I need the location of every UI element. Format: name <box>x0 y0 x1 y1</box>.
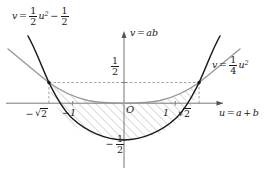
x-tick-label-one: 1 <box>163 108 169 118</box>
left-curve-fraction-one: 1 2 <box>29 6 37 26</box>
half-fraction: 1 2 <box>111 56 119 76</box>
neg-half-num: 1 <box>116 134 124 145</box>
neg-half-sign: − <box>104 139 115 149</box>
x-tick-label-negative-sqrt2: − √ 2 <box>24 108 48 119</box>
left-curve-frac2-den: 2 <box>61 17 69 27</box>
neg-half-den: 2 <box>116 145 124 155</box>
parabola-intersection-figure: v = 1 2 u2 − 1 2 v = ab v = 1 <box>0 0 271 173</box>
x-tick-label-sqrt2: √ 2 <box>178 108 191 119</box>
y-axis-eq: = <box>135 28 146 38</box>
y-tick-label-half: 1 2 <box>110 56 120 76</box>
left-curve-frac1-den: 2 <box>29 17 37 27</box>
origin-label: O <box>126 105 134 115</box>
y-axis-label: v = ab <box>130 28 158 38</box>
neg-sqrt2-sign: − <box>24 109 35 119</box>
left-curve-u: u <box>38 11 44 21</box>
y-tick-label-negative-half: − 1 2 <box>104 134 125 154</box>
y-axis-b: b <box>152 28 158 38</box>
neg-half-fraction: 1 2 <box>116 134 124 154</box>
right-curve-frac-den: 4 <box>229 66 237 76</box>
right-curve-eq: = <box>217 60 228 70</box>
left-curve-frac2-num: 1 <box>61 6 69 17</box>
left-curve-fraction-two: 1 2 <box>61 6 69 26</box>
x-axis-eq: = <box>225 108 236 118</box>
left-curve-equation-label: v = 1 2 u2 − 1 2 <box>12 6 70 26</box>
x-axis-plus: + <box>242 108 253 118</box>
left-curve-eq: = <box>17 11 28 21</box>
right-curve-u: u <box>238 60 244 70</box>
right-curve-equation-label: v = 1 4 u2 <box>212 55 249 75</box>
half-den: 2 <box>111 67 119 77</box>
sqrt2-radical-group: √ 2 <box>178 108 191 119</box>
right-curve-fraction: 1 4 <box>229 55 237 75</box>
left-curve-minus: − <box>49 11 60 21</box>
x-axis-b: b <box>253 108 259 118</box>
neg-sqrt2-value: 2 <box>40 108 48 119</box>
half-num: 1 <box>111 56 119 67</box>
left-curve-frac1-num: 1 <box>29 6 37 17</box>
right-curve-frac-num: 1 <box>229 55 237 66</box>
sqrt2-value: 2 <box>183 108 191 119</box>
neg-sqrt2-radical-group: √ 2 <box>35 108 48 119</box>
x-tick-label-negative-one: −1 <box>62 108 76 118</box>
x-axis-label: u = a + b <box>219 108 259 118</box>
